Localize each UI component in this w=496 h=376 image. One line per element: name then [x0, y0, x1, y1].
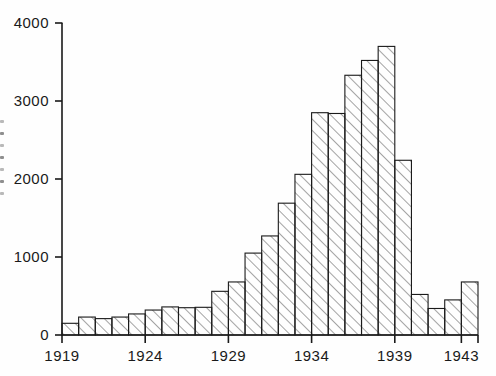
bar [328, 113, 345, 335]
histogram-plot: 0100020003000400019191924192919341939194… [0, 0, 496, 376]
bar [79, 317, 96, 335]
bar [395, 160, 412, 335]
x-tick-label: 1924 [128, 347, 163, 364]
bar-rect [395, 160, 412, 335]
bar-rect [295, 174, 312, 335]
y-tick-label: 0 [40, 326, 49, 343]
bar [362, 60, 379, 335]
bar [245, 253, 262, 335]
bar [62, 323, 79, 335]
bar-rect [278, 203, 295, 335]
bar-rect [345, 75, 362, 335]
bar-rect [145, 310, 162, 335]
bar-rect [245, 253, 262, 335]
bar [345, 75, 362, 335]
bar [228, 282, 245, 335]
x-tick-label: 1943 [444, 347, 479, 364]
bar-rect [445, 300, 462, 335]
y-tick-label: 4000 [14, 14, 49, 31]
bar-rect [411, 294, 428, 335]
bar-rect [312, 113, 329, 335]
bar [278, 203, 295, 335]
x-tick-label: 1929 [211, 347, 246, 364]
bar-rect [461, 282, 478, 335]
bar-rect [129, 314, 146, 335]
bar [145, 310, 162, 335]
bar [411, 294, 428, 335]
bar [112, 317, 129, 335]
bar-rect [178, 308, 195, 335]
bar-rect [262, 236, 279, 335]
bar-rect [195, 307, 212, 335]
bar [178, 308, 195, 335]
bar-rect [162, 307, 179, 335]
chart-screenshot: 0100020003000400019191924192919341939194… [0, 0, 496, 376]
bar-rect [62, 323, 79, 335]
bar [312, 113, 329, 335]
bar-rect [428, 308, 445, 335]
bar [195, 307, 212, 335]
bar [129, 314, 146, 335]
x-tick-label: 1939 [377, 347, 412, 364]
bar-chart-svg: 0100020003000400019191924192919341939194… [0, 0, 496, 376]
bar [378, 46, 395, 335]
bar-rect [328, 113, 345, 335]
bar [428, 308, 445, 335]
bar-rect [79, 317, 96, 335]
bar-rect [112, 317, 129, 335]
bar-rect [228, 282, 245, 335]
bar [262, 236, 279, 335]
bar [295, 174, 312, 335]
bar-rect [378, 46, 395, 335]
bar [162, 307, 179, 335]
x-tick-label: 1934 [294, 347, 329, 364]
bar-rect [212, 291, 229, 335]
bar-rect [95, 319, 112, 335]
x-tick-label: 1919 [44, 347, 79, 364]
y-tick-label: 2000 [14, 170, 49, 187]
bar [445, 300, 462, 335]
bar [461, 282, 478, 335]
bars-group [62, 46, 478, 335]
bar [95, 319, 112, 335]
y-tick-label: 1000 [14, 248, 49, 265]
bar-rect [362, 60, 379, 335]
y-tick-label: 3000 [14, 92, 49, 109]
bar [212, 291, 229, 335]
